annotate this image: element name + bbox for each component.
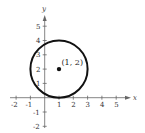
- y-tick-label: 2: [36, 66, 40, 74]
- y-tick-label: 4: [36, 37, 41, 45]
- x-tick-label: 2: [71, 101, 75, 109]
- y-tick-label: 5: [36, 23, 40, 31]
- x-tick-label: -2: [11, 101, 18, 109]
- x-tick-label: 5: [114, 101, 118, 109]
- center-point: [57, 67, 61, 71]
- x-axis-arrow-icon: [125, 96, 131, 100]
- x-tick-label: 3: [86, 101, 90, 109]
- y-axis-arrow-icon: [43, 15, 47, 21]
- y-axis-label: y: [41, 5, 47, 13]
- y-axis: [43, 15, 47, 128]
- x-tick-label: 1: [57, 101, 61, 109]
- center-point-label: (1, 2): [62, 58, 84, 67]
- y-tick-label: -2: [33, 123, 40, 131]
- coordinate-plane: x y -2 -1 1 2 3 4 5 -2 -1 1 2 3 4 5 (1, …: [0, 0, 145, 133]
- y-tick-label: -1: [33, 109, 40, 117]
- x-tick-label: 4: [100, 101, 105, 109]
- x-axis-label: x: [133, 94, 137, 102]
- x-tick-label: -1: [26, 101, 33, 109]
